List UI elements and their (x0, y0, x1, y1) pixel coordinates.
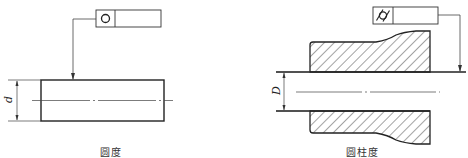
feature-control-frame-cylindricity (373, 7, 438, 24)
dimension-D (283, 73, 286, 111)
arrow-icon (71, 73, 75, 80)
leader-line-roundness (73, 19, 96, 79)
section-lower (310, 111, 430, 144)
section-upper (310, 31, 430, 72)
dimension-label-d: d (2, 96, 15, 103)
dimension-label-D: D (270, 86, 283, 95)
feature-control-frame-roundness (96, 10, 161, 27)
caption-cylindricity: 圆柱度 (346, 144, 379, 158)
drawing-canvas (0, 0, 468, 158)
figure-roundness (8, 10, 173, 121)
figure-cylindricity (276, 7, 466, 144)
caption-roundness: 圆度 (100, 144, 122, 158)
leader-line-cylindricity (438, 15, 460, 71)
arrow-icon (458, 65, 462, 72)
